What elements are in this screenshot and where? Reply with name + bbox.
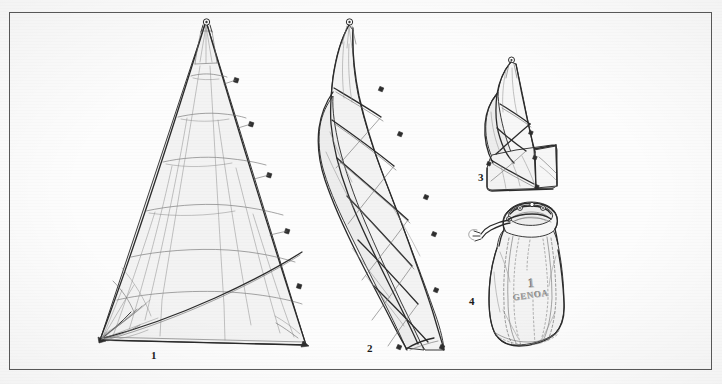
figure-4-sail-bag: 1 GENOA 1 GENOA (469, 202, 564, 346)
figure-1-sail-flat (98, 19, 309, 347)
figure-caption-3: 3 (478, 172, 484, 183)
figure-3-sail-folded (485, 57, 557, 191)
figure-artwork: .ink { fill:none; stroke:#3a3a3a; stroke… (0, 0, 722, 384)
figure-caption-1: 1 (151, 350, 157, 361)
figure-caption-2: 2 (367, 343, 373, 354)
figure-caption-4: 4 (469, 296, 475, 307)
illustration-page: .ink { fill:none; stroke:#3a3a3a; stroke… (0, 0, 722, 384)
figure-2-sail-flaked (318, 19, 445, 350)
bag-stencil-number-shadow: 1 (527, 275, 535, 291)
